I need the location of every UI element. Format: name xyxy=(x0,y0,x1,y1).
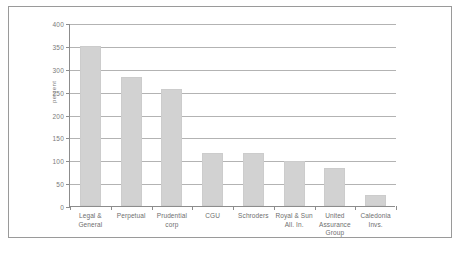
y-axis-tick-label: 250 xyxy=(53,89,64,96)
y-axis-tick-label: 0 xyxy=(60,204,64,211)
x-axis-tick xyxy=(233,206,234,210)
y-axis-tick-label: 350 xyxy=(53,43,64,50)
x-axis-tick xyxy=(274,206,275,210)
y-axis-tick-label: 100 xyxy=(53,158,64,165)
y-axis-tick-label: 400 xyxy=(53,21,64,28)
y-axis-tick xyxy=(66,116,70,117)
bar[interactable] xyxy=(161,89,182,206)
bar[interactable] xyxy=(324,168,345,206)
x-axis-tick xyxy=(152,206,153,210)
bar[interactable] xyxy=(121,77,142,206)
y-axis-tick-label: 200 xyxy=(53,112,64,119)
y-axis-tick xyxy=(66,184,70,185)
gridline xyxy=(70,70,396,71)
bar[interactable] xyxy=(202,153,223,206)
gridline xyxy=(70,138,396,139)
x-axis-tick-label: CaledoniaInvs. xyxy=(350,212,402,229)
bar[interactable] xyxy=(80,46,101,206)
gridline xyxy=(70,47,396,48)
x-axis-label-line: corp xyxy=(146,221,198,230)
figure-frame: percent 050100150200250300350400 Legal &… xyxy=(8,6,452,238)
plot-area: 050100150200250300350400 Legal &GeneralP… xyxy=(69,24,395,207)
x-axis-label-line: General xyxy=(64,221,116,230)
bar[interactable] xyxy=(243,153,264,206)
y-axis-tick xyxy=(66,138,70,139)
x-axis-label-line: Group xyxy=(309,229,361,238)
y-axis-tick xyxy=(66,24,70,25)
x-axis-tick xyxy=(315,206,316,210)
y-axis-tick xyxy=(66,93,70,94)
y-axis-tick xyxy=(66,70,70,71)
bar-chart: percent 050100150200250300350400 Legal &… xyxy=(9,7,453,239)
x-axis-tick xyxy=(355,206,356,210)
y-axis-tick xyxy=(66,161,70,162)
gridline xyxy=(70,184,396,185)
x-axis-label-line: Invs. xyxy=(350,221,402,230)
y-axis-tick-label: 300 xyxy=(53,66,64,73)
x-axis-tick xyxy=(70,206,71,210)
x-axis-tick xyxy=(192,206,193,210)
y-axis-tick-label: 50 xyxy=(56,181,64,188)
gridline xyxy=(70,24,396,25)
y-axis-tick-label: 150 xyxy=(53,135,64,142)
bar[interactable] xyxy=(284,161,305,206)
gridline xyxy=(70,161,396,162)
x-axis-label-line: Caledonia xyxy=(350,212,402,221)
bar[interactable] xyxy=(365,195,386,206)
gridline xyxy=(70,116,396,117)
x-axis-tick xyxy=(396,206,397,210)
x-axis-tick xyxy=(111,206,112,210)
y-axis-tick xyxy=(66,47,70,48)
gridline xyxy=(70,93,396,94)
